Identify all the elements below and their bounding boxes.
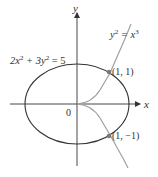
y-axis-label: y (72, 2, 78, 14)
point-1-1-marker (107, 70, 112, 75)
point-1-1-label: (1, 1) (112, 66, 134, 78)
ellipse-equation-label: 2x2 + 3y2 = 5 (10, 54, 66, 66)
cusp-equation-label: y2 = x3 (109, 28, 139, 40)
point-1-neg1-marker (107, 134, 112, 139)
origin-label: 0 (66, 107, 71, 118)
x-axis-label: x (143, 98, 149, 110)
point-1-neg1-label: (1, −1) (112, 130, 139, 142)
diagram-canvas: y x 0 2x2 + 3y2 = 5 y2 = x3 (1, 1) (1, −… (0, 0, 158, 177)
